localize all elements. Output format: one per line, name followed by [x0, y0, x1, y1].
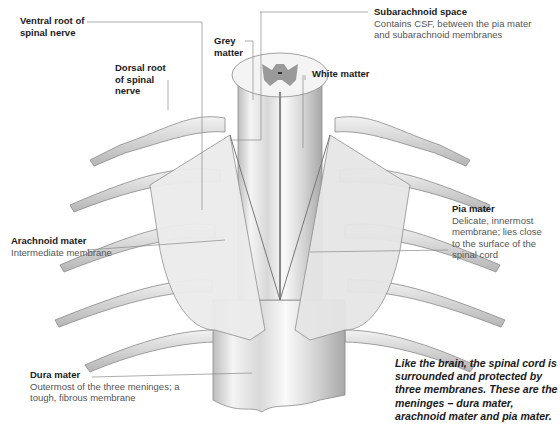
pia-mater-desc: Delicate, innermost membrane; lies close…: [452, 215, 552, 261]
dorsal-root-title: Dorsal root of spinal nerve: [115, 62, 177, 97]
label-dura-mater: Dura mater Outermost of the three mening…: [30, 369, 190, 404]
subarachnoid-desc: Contains CSF, between the pia mater and …: [374, 18, 544, 41]
dura-mater-title: Dura mater: [30, 369, 190, 381]
label-dorsal-root: Dorsal root of spinal nerve: [115, 62, 177, 97]
label-grey-matter: Grey matter: [214, 35, 246, 58]
label-ventral-root: Ventral root of spinal nerve: [20, 15, 90, 38]
arachnoid-title: Arachnoid mater: [11, 235, 121, 247]
label-arachnoid-mater: Arachnoid mater Intermediate membrane: [11, 235, 121, 258]
subarachnoid-title: Subarachnoid space: [374, 6, 544, 18]
grey-matter-title: Grey matter: [214, 35, 246, 58]
pia-mater-title: Pia mater: [452, 203, 552, 215]
ventral-root-title: Ventral root of spinal nerve: [20, 15, 90, 38]
meninges-summary-note: Like the brain, the spinal cord is surro…: [395, 357, 560, 423]
dura-mater-desc: Outermost of the three meninges; a tough…: [30, 381, 190, 404]
label-pia-mater: Pia mater Delicate, innermost membrane; …: [452, 203, 552, 261]
white-matter-title: White matter: [312, 68, 370, 80]
label-subarachnoid-space: Subarachnoid space Contains CSF, between…: [374, 6, 544, 41]
arachnoid-desc: Intermediate membrane: [11, 247, 121, 259]
label-white-matter: White matter: [312, 68, 370, 80]
